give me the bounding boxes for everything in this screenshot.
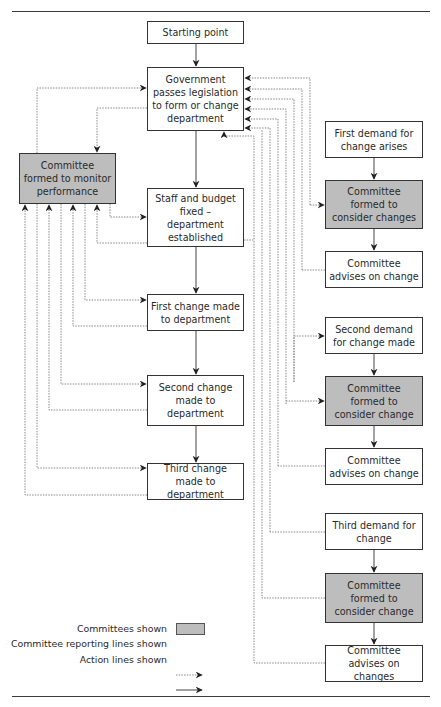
legend-committee-swatch [176, 623, 205, 635]
legend-committees-label: Committees shown [77, 623, 167, 634]
legend-reporting-label: Committee reporting lines shown [11, 638, 167, 649]
legend-lines [176, 675, 202, 690]
box-consider-committee-2: Committee formed to consider change [325, 376, 423, 426]
box-government-legislation: Government passes legislation to form or… [147, 67, 244, 131]
box-monitor-committee: Committee formed to monitor performance [19, 153, 116, 204]
box-advises-1: Committee advises on change [325, 251, 423, 288]
legend-action-label: Action lines shown [80, 654, 167, 665]
box-second-demand: Second demand for change made [325, 317, 423, 354]
box-consider-committee-3: Committee formed to consider change [325, 573, 423, 623]
box-third-change: Third change made to department [147, 463, 244, 500]
box-first-change: First change made to department [147, 294, 244, 331]
box-second-change: Second change made to department [147, 375, 244, 426]
box-staff-budget: Staff and budget fixed – department esta… [147, 188, 244, 247]
box-consider-committee-1: Committee formed to consider changes [325, 180, 423, 229]
box-advises-3: Committee advises on changes [325, 645, 423, 682]
box-advises-2: Committee advises on change [325, 448, 423, 485]
box-starting-point: Starting point [147, 21, 244, 44]
box-first-demand: First demand for change arises [325, 121, 423, 158]
box-third-demand: Third demand for change [325, 513, 423, 550]
